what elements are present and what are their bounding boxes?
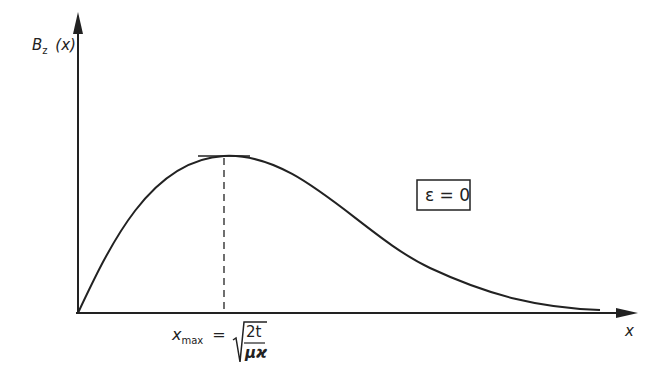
bz-curve xyxy=(78,156,600,313)
plot-canvas xyxy=(0,0,669,385)
x-axis-label: x xyxy=(625,322,634,340)
xmax-label: xmax = xyxy=(172,325,226,346)
y-axis-arrow-icon xyxy=(73,12,83,34)
y-axis xyxy=(73,12,83,314)
x-axis-arrow-icon xyxy=(616,308,638,318)
y-axis-label: Bz (x) xyxy=(32,36,76,56)
xmax-numerator: 2t xyxy=(246,323,261,341)
xmax-denominator: μϰ xyxy=(245,344,267,362)
condition-text: ε = 0 xyxy=(425,185,470,205)
x-axis xyxy=(76,308,638,318)
